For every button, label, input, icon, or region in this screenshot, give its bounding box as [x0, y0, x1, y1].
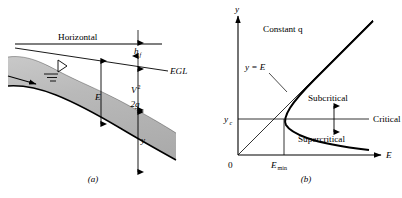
energy-label: E	[94, 92, 101, 102]
constant-q-label: Constant q	[263, 24, 303, 34]
y-critical-label: y c	[223, 114, 233, 126]
horizontal-label: Horizontal	[58, 32, 98, 42]
water-body-shading	[0, 45, 201, 170]
asymptote-label: y = E	[244, 62, 266, 72]
panel-a-drawing: Horizontal EGL h f E V 2 2g y	[0, 0, 201, 198]
critical-label: Critical	[373, 114, 401, 124]
panel-b-drawing: y E 0 Critical y c E min	[201, 0, 402, 198]
velocity-head-label: V 2 2g	[131, 84, 141, 110]
svg-text:h: h	[134, 46, 139, 56]
e-min-label: E min	[270, 160, 287, 171]
svg-text:E: E	[270, 160, 277, 170]
head-loss-label: h f	[134, 46, 143, 58]
svg-text:f: f	[140, 52, 143, 58]
origin-label: 0	[228, 160, 233, 170]
supercritical-label: Supercritical	[298, 134, 345, 144]
egl-label: EGL	[169, 66, 187, 76]
constant-q-curve	[285, 21, 373, 150]
svg-text:2g: 2g	[131, 99, 141, 109]
specific-energy-figure: Horizontal EGL h f E V 2 2g y	[0, 0, 402, 198]
panel-b-caption: (b)	[301, 174, 312, 184]
asymptote-leader-line	[269, 73, 287, 92]
svg-text:min: min	[278, 165, 287, 171]
svg-text:y: y	[223, 114, 229, 124]
svg-text:2: 2	[138, 84, 141, 90]
svg-text:c: c	[230, 120, 233, 126]
svg-text:Constant q: Constant q	[263, 24, 303, 34]
panel-b-specific-energy-diagram: y E 0 Critical y c E min	[201, 0, 402, 198]
panel-a-channel-flow: Horizontal EGL h f E V 2 2g y	[0, 0, 201, 198]
y-axis-label: y	[234, 4, 240, 14]
panel-a-caption: (a)	[88, 174, 99, 184]
subcritical-label: Subcritical	[308, 93, 348, 103]
x-axis-label: E	[385, 150, 392, 160]
